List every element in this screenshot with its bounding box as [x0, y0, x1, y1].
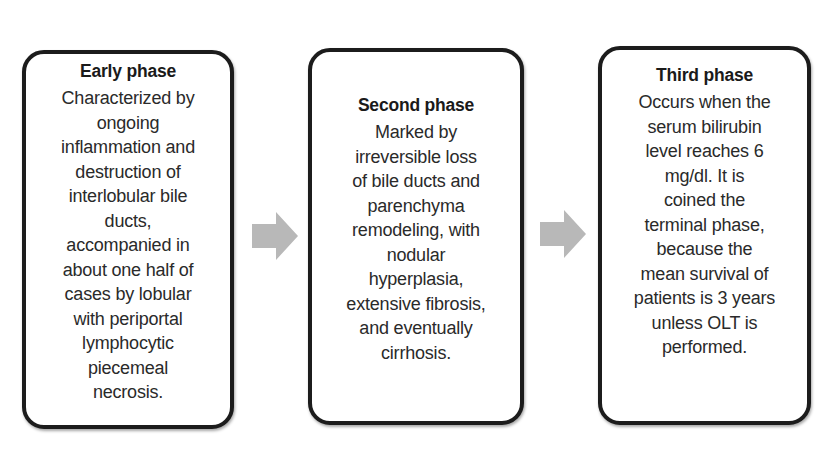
- text-line: inflammation and: [61, 135, 195, 160]
- text-line: unless OLT is: [634, 311, 775, 336]
- text-line: cases by lobular: [61, 282, 195, 307]
- text-line: nodular: [346, 243, 485, 268]
- text-line: interlobular bile: [61, 184, 195, 209]
- text-line: hyperplasia,: [346, 267, 485, 292]
- text-line: parenchyma: [346, 194, 485, 219]
- text-line: mean survival of: [634, 262, 775, 287]
- text-line: necrosis.: [61, 380, 195, 405]
- right-arrow-icon: [540, 210, 586, 258]
- phase-description: Occurs when the serum bilirubin level re…: [634, 90, 775, 360]
- text-line: Occurs when the: [634, 90, 775, 115]
- phase-box-third: Third phase Occurs when the serum biliru…: [598, 46, 811, 425]
- text-line: mg/dl. It is: [634, 164, 775, 189]
- text-line: destruction of: [61, 160, 195, 185]
- phase-title: Early phase: [80, 60, 176, 82]
- text-line: about one half of: [61, 258, 195, 283]
- text-line: because the: [634, 237, 775, 262]
- phase-box-second: Second phase Marked by irreversible loss…: [308, 48, 524, 425]
- phase-title: Second phase: [358, 94, 474, 116]
- text-line: ducts,: [61, 209, 195, 234]
- phase-title: Third phase: [656, 64, 753, 86]
- text-line: with periportal: [61, 307, 195, 332]
- phase-description: Marked by irreversible loss of bile duct…: [346, 120, 485, 365]
- text-line: level reaches 6: [634, 139, 775, 164]
- phase-description: Characterized by ongoing inflammation an…: [61, 86, 195, 405]
- text-line: ongoing: [61, 111, 195, 136]
- text-line: serum bilirubin: [634, 115, 775, 140]
- text-line: Marked by: [346, 120, 485, 145]
- text-line: irreversible loss: [346, 145, 485, 170]
- text-line: patients is 3 years: [634, 286, 775, 311]
- text-line: lymphocytic: [61, 331, 195, 356]
- text-line: Characterized by: [61, 86, 195, 111]
- text-line: performed.: [634, 335, 775, 360]
- right-arrow-icon: [252, 212, 298, 260]
- text-line: accompanied in: [61, 233, 195, 258]
- phase-box-early: Early phase Characterized by ongoing inf…: [22, 50, 234, 429]
- text-line: and eventually: [346, 316, 485, 341]
- text-line: remodeling, with: [346, 218, 485, 243]
- text-line: terminal phase,: [634, 213, 775, 238]
- text-line: cirrhosis.: [346, 341, 485, 366]
- text-line: of bile ducts and: [346, 169, 485, 194]
- text-line: coined the: [634, 188, 775, 213]
- text-line: extensive fibrosis,: [346, 292, 485, 317]
- text-line: piecemeal: [61, 356, 195, 381]
